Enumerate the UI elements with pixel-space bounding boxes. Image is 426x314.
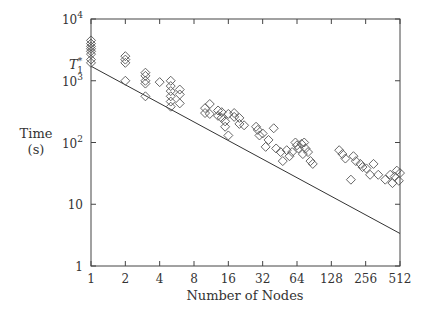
y-axis-label: Time [20,126,53,141]
chart-plot: 1248163264128256512 110102103104 T*1 Tim… [0,0,426,314]
x-tick-label: 128 [320,272,343,286]
y-tick-label: 1 [75,260,83,274]
data-point-diamond [141,92,150,101]
x-tick-label: 8 [190,272,198,286]
data-point-diamond [121,52,130,61]
data-point-diamond [235,119,244,128]
data-point-diamond [369,159,378,168]
x-tick-label: 16 [221,272,236,286]
data-point-diamond [166,92,175,101]
data-point-diamond [155,78,164,87]
x-tick-label: 1 [87,272,95,286]
t1-star-annotation: T*1 [69,56,83,75]
x-axis-label: Number of Nodes [186,288,303,303]
y-axis-label-units: (s) [28,142,45,157]
data-point-diamond [221,122,230,131]
x-tick-label: 2 [122,272,130,286]
data-point-diamond [175,99,184,108]
x-tick-label: 512 [389,272,412,286]
data-point-diamond [240,121,249,130]
data-point-diamond [269,124,278,133]
data-point-diamond [121,58,130,67]
axes-frame [91,19,400,266]
x-axis-ticks: 1248163264128256512 [87,19,411,286]
data-point-diamond [346,175,355,184]
y-tick-label: 102 [62,134,83,151]
data-point-diamond [121,76,130,85]
x-tick-label: 64 [289,272,305,286]
data-points [87,36,405,188]
x-tick-label: 32 [255,272,270,286]
x-tick-label: 4 [156,272,164,286]
y-tick-label: 10 [68,198,83,212]
speedup-line [91,66,400,233]
data-point-diamond [166,76,175,85]
data-point-diamond [121,55,130,64]
svg-text:T*1: T*1 [69,56,83,75]
data-point-diamond [205,100,214,109]
x-tick-label: 256 [354,272,377,286]
y-tick-label: 104 [62,10,83,27]
data-point-diamond [278,157,287,166]
